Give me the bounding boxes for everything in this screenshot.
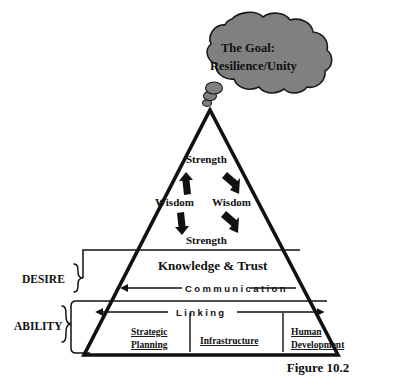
column-1-line2: Planning (131, 340, 168, 350)
brace-ability (62, 306, 71, 342)
pyramid-triangle (84, 110, 338, 355)
cycle-node-top: Strength (186, 153, 227, 165)
side-label-ability: ABILITY (14, 320, 63, 332)
figure-diagram: The Goal: Resilience/Unity Strength Wisd… (0, 0, 419, 387)
column-3-line2: Development (291, 340, 345, 350)
bracket-desire (83, 250, 122, 278)
column-2-line1: Infrastructure (200, 336, 258, 346)
cycle-node-bottom: Strength (186, 234, 227, 246)
figure-caption: Figure 10.2 (287, 360, 350, 375)
cycle-node-left: Wisdom (155, 196, 194, 208)
side-label-desire-group: DESIRE (22, 250, 122, 292)
side-label-ability-group: ABILITY (14, 301, 96, 353)
column-3-line1: Human (291, 327, 322, 337)
bracket-ability-top (71, 301, 96, 324)
column-infrastructure: Infrastructure (200, 336, 258, 346)
side-label-desire: DESIRE (22, 273, 65, 285)
column-1-line1: Strategic (131, 327, 167, 337)
cloud-text-line1: The Goal: (221, 41, 275, 55)
cloud-puff-large (206, 82, 223, 94)
cycle-node-right: Wisdom (212, 196, 251, 208)
pyramid-outline (84, 110, 338, 355)
brace-desire (74, 264, 83, 292)
flow-label-communication: Communication (185, 283, 288, 294)
flow-label-linking: Linking (176, 307, 227, 318)
band-title-knowledge-trust: Knowledge & Trust (158, 258, 268, 273)
goal-cloud: The Goal: Resilience/Unity (203, 12, 332, 106)
cloud-text-line2: Resilience/Unity (210, 59, 298, 73)
